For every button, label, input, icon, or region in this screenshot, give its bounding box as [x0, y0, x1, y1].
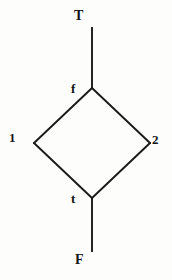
network-graphic [0, 0, 172, 280]
terminal-bottom-label: F [75, 253, 84, 267]
edge-f-to-left-corner [34, 88, 92, 143]
edge-label-1: 1 [9, 131, 16, 144]
vertex-f-label: f [71, 82, 75, 95]
edge-f-to-right-corner [92, 88, 150, 143]
edge-left-corner-to-t [34, 143, 92, 198]
vertex-t-label: t [71, 192, 75, 205]
edge-right-corner-to-t [92, 143, 150, 198]
terminal-top-label: T [74, 9, 83, 23]
diagram-canvas: T f 1 2 t F [0, 0, 172, 280]
edge-label-2: 2 [152, 133, 159, 146]
